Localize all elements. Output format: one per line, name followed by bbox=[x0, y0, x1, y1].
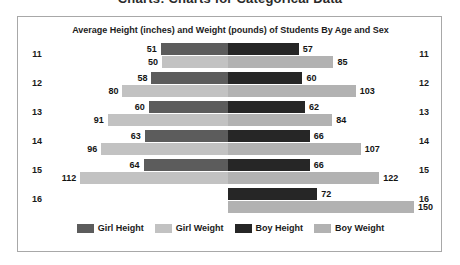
chart-legend: Girl HeightGirl WeightBoy HeightBoy Weig… bbox=[18, 223, 443, 233]
bar-value-girl-height: 51 bbox=[119, 43, 157, 55]
height-line: 5860 bbox=[18, 72, 443, 84]
bar-segment-boy-weight bbox=[228, 172, 379, 184]
weight-line: 80103 bbox=[18, 85, 443, 97]
bar-segment-boy-weight bbox=[228, 85, 356, 97]
bar-value-girl-height: 63 bbox=[103, 130, 141, 142]
legend-label-girl-weight: Girl Weight bbox=[176, 223, 224, 233]
bar-segment-girl-weight bbox=[80, 172, 228, 184]
bar-segment-girl-weight bbox=[162, 56, 228, 68]
bar-segment-boy-weight bbox=[228, 56, 333, 68]
height-line: 6466 bbox=[18, 159, 443, 171]
chart-title: Average Height (inches) and Weight (poun… bbox=[18, 25, 443, 35]
weight-line: 96107 bbox=[18, 143, 443, 155]
bar-segment-boy-height bbox=[228, 130, 310, 142]
weight-line: 9184 bbox=[18, 114, 443, 126]
bar-segment-boy-weight bbox=[228, 114, 332, 126]
bar-segment-girl-weight bbox=[101, 143, 228, 155]
age-row: 131360629184 bbox=[18, 100, 443, 129]
legend-swatch-girl-weight bbox=[155, 224, 172, 233]
bar-value-boy-weight: 107 bbox=[365, 143, 380, 155]
bar-value-boy-height: 62 bbox=[309, 101, 319, 113]
bar-value-girl-weight: 112 bbox=[38, 172, 76, 184]
age-row: 1414636696107 bbox=[18, 129, 443, 158]
bar-segment-boy-height bbox=[228, 72, 302, 84]
weight-line: 5085 bbox=[18, 56, 443, 68]
legend-swatch-girl-height bbox=[77, 224, 94, 233]
weight-line: 112122 bbox=[18, 172, 443, 184]
page-heading: Charts: Charts for Categorical Data bbox=[0, 0, 460, 7]
bar-value-girl-weight: 50 bbox=[120, 56, 158, 68]
bar-segment-boy-height bbox=[228, 43, 299, 55]
bar-segment-boy-height bbox=[228, 159, 310, 171]
legend-label-boy-height: Boy Height bbox=[256, 223, 304, 233]
bar-segment-girl-height bbox=[151, 72, 228, 84]
bar-value-girl-weight: 91 bbox=[66, 114, 104, 126]
bar-value-girl-weight: 96 bbox=[59, 143, 97, 155]
age-row: 111151575085 bbox=[18, 42, 443, 71]
legend-item-girl-height: Girl Height bbox=[77, 223, 144, 233]
legend-swatch-boy-weight bbox=[314, 224, 331, 233]
weight-line: 150 bbox=[18, 201, 443, 213]
bar-value-girl-height: 60 bbox=[107, 101, 145, 113]
legend-item-girl-weight: Girl Weight bbox=[155, 223, 224, 233]
bar-segment-girl-height bbox=[149, 101, 228, 113]
bar-value-girl-height: 58 bbox=[109, 72, 147, 84]
legend-swatch-boy-height bbox=[235, 224, 252, 233]
bar-segment-girl-height bbox=[144, 159, 228, 171]
height-line: 6366 bbox=[18, 130, 443, 142]
legend-item-boy-weight: Boy Weight bbox=[314, 223, 384, 233]
age-row: 161672150 bbox=[18, 187, 443, 216]
bar-segment-girl-height bbox=[161, 43, 228, 55]
bar-value-boy-weight: 85 bbox=[337, 56, 347, 68]
bar-segment-girl-weight bbox=[122, 85, 228, 97]
height-line: 6062 bbox=[18, 101, 443, 113]
bar-segment-boy-weight bbox=[228, 201, 414, 213]
age-row: 15156466112122 bbox=[18, 158, 443, 187]
bar-value-boy-weight: 122 bbox=[383, 172, 398, 184]
bar-value-boy-height: 66 bbox=[314, 130, 324, 142]
legend-item-boy-height: Boy Height bbox=[235, 223, 304, 233]
bar-segment-girl-height bbox=[145, 130, 228, 142]
bar-value-boy-height: 57 bbox=[303, 43, 313, 55]
bar-value-boy-height: 60 bbox=[306, 72, 316, 84]
bar-value-girl-weight: 80 bbox=[80, 85, 118, 97]
bar-segment-boy-weight bbox=[228, 143, 361, 155]
bar-segment-girl-weight bbox=[108, 114, 228, 126]
legend-label-boy-weight: Boy Weight bbox=[335, 223, 384, 233]
chart-plot-area: 1111515750851212586080103131360629184141… bbox=[18, 41, 443, 217]
bar-value-boy-height: 66 bbox=[314, 159, 324, 171]
bar-value-boy-height: 72 bbox=[321, 188, 331, 200]
height-line: 5157 bbox=[18, 43, 443, 55]
bar-value-boy-weight: 103 bbox=[360, 85, 375, 97]
bar-value-boy-weight: 84 bbox=[336, 114, 346, 126]
height-line: 72 bbox=[18, 188, 443, 200]
chart-frame: Average Height (inches) and Weight (poun… bbox=[17, 16, 442, 252]
bar-value-boy-weight: 150 bbox=[418, 201, 433, 213]
bar-value-girl-height: 64 bbox=[102, 159, 140, 171]
legend-label-girl-height: Girl Height bbox=[98, 223, 144, 233]
age-row: 1212586080103 bbox=[18, 71, 443, 100]
bar-segment-boy-height bbox=[228, 101, 305, 113]
bar-segment-boy-height bbox=[228, 188, 317, 200]
